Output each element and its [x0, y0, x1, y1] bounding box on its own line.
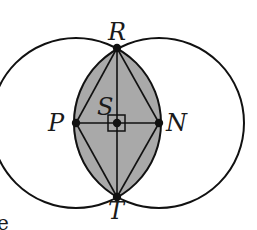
- label-t: T: [108, 197, 126, 225]
- label-r: R: [107, 18, 126, 46]
- label-s: S: [97, 93, 113, 121]
- stray-text-fragment: e: [0, 211, 9, 230]
- label-p: P: [47, 109, 65, 137]
- point-n: [155, 119, 163, 127]
- geometry-diagram: R T P N S e: [0, 0, 257, 230]
- point-s: [113, 119, 121, 127]
- point-p: [72, 119, 80, 127]
- label-n: N: [165, 109, 188, 137]
